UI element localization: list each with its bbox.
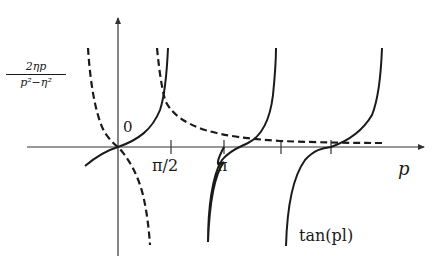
y-label-denominator: p²−η² (6, 75, 66, 89)
tan-branch-2 (208, 48, 276, 242)
tick-label-pi-half: π/2 (152, 156, 178, 175)
rational-branch-right (157, 48, 382, 143)
tick-label-pi: π (217, 156, 228, 175)
x-axis-label: p (398, 158, 410, 179)
curve-label-tan: tan(pl) (299, 226, 353, 245)
tan-branch-1 (85, 48, 168, 166)
y-label-numerator: 2ηp (6, 60, 66, 75)
y-axis-label: 2ηp p²−η² (6, 60, 66, 89)
origin-label: 0 (123, 118, 133, 136)
plot-canvas (0, 0, 444, 264)
